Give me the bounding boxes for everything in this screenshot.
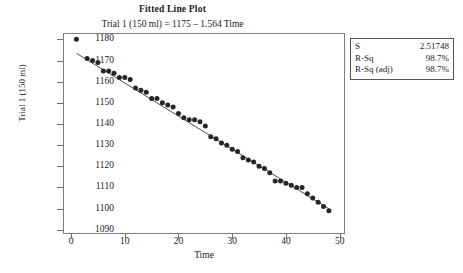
x-axis-title: Time: [63, 250, 345, 260]
chart-subtitle: Trial 1 (150 ml) = 1175 – 1.564 Time: [0, 19, 345, 29]
y-tick-mark: [57, 103, 63, 104]
y-tick-mark: [57, 82, 63, 83]
fitted-line-plot-figure: Fitted Line Plot Trial 1 (150 ml) = 1175…: [0, 0, 463, 273]
statistics-row: R-Sq98.7%: [351, 53, 453, 65]
x-tick-mark: [232, 234, 233, 239]
statistics-row: S2.51748: [351, 41, 453, 53]
y-tick-label: 1150: [72, 98, 114, 107]
y-tick-mark: [57, 124, 63, 125]
x-tick-mark: [125, 234, 126, 239]
y-tick-label: 1160: [72, 77, 114, 86]
y-tick-mark: [57, 187, 63, 188]
y-tick-label: 1180: [72, 34, 114, 43]
statistic-value: 2.51748: [420, 41, 449, 53]
y-tick-mark: [57, 209, 63, 210]
y-tick-label: 1170: [72, 56, 114, 65]
y-tick-label: 1140: [72, 119, 114, 128]
x-tick-mark: [286, 234, 287, 239]
y-tick-label: 1130: [72, 140, 114, 149]
statistic-label: S: [355, 41, 360, 53]
statistic-value: 98.7%: [426, 53, 449, 65]
y-tick-mark: [57, 230, 63, 231]
y-tick-mark: [57, 145, 63, 146]
y-tick-label: 1120: [72, 161, 114, 170]
y-tick-mark: [57, 39, 63, 40]
y-tick-mark: [57, 61, 63, 62]
statistic-label: R-Sq: [355, 53, 374, 65]
x-tick-mark: [71, 234, 72, 239]
y-tick-label: 1110: [72, 182, 114, 191]
chart-title: Fitted Line Plot: [0, 4, 345, 14]
x-tick-mark: [340, 234, 341, 239]
y-tick-label: 1100: [72, 204, 114, 213]
statistics-box: S2.51748R-Sq98.7%R-Sq (adj)98.7%: [350, 38, 454, 80]
y-tick-label: 1090: [72, 225, 114, 234]
y-axis-title: Trial 1 (150 ml): [17, 23, 27, 163]
statistic-label: R-Sq (adj): [355, 64, 393, 76]
y-tick-mark: [57, 166, 63, 167]
statistic-value: 98.7%: [426, 64, 449, 76]
statistics-row: R-Sq (adj)98.7%: [351, 64, 453, 76]
x-tick-mark: [178, 234, 179, 239]
